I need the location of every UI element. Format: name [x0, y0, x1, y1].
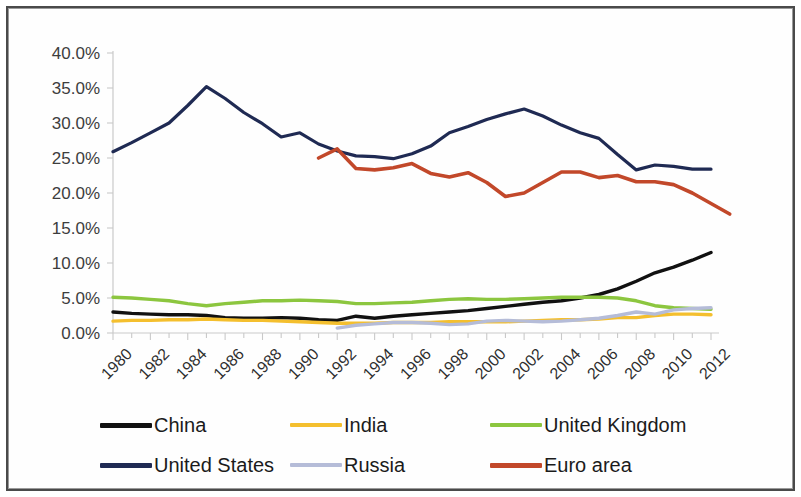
legend-label-china: China: [154, 415, 206, 435]
legend-swatch-china: [100, 423, 152, 428]
legend-item-china[interactable]: China: [100, 415, 290, 435]
legend-row: China India United Kingdom: [100, 405, 740, 445]
x-tick-label: 1982: [135, 345, 172, 382]
y-axis-ticks: [107, 53, 113, 333]
x-tick-label: 2002: [509, 345, 546, 382]
x-tick-label: 1994: [360, 345, 397, 382]
x-tick-label: 1996: [397, 345, 434, 382]
x-tick-label: 2004: [546, 345, 583, 382]
x-axis-ticks: [113, 333, 711, 340]
x-tick-label: 2008: [621, 345, 658, 382]
x-tick-label: 1984: [173, 345, 210, 382]
x-tick-label: 2010: [659, 345, 696, 382]
chart-legend: China India United Kingdom United States…: [100, 405, 740, 485]
y-tick-label: 0.0%: [61, 324, 100, 343]
legend-label-united-states: United States: [154, 455, 274, 475]
x-tick-label: 1992: [322, 345, 359, 382]
x-tick-label: 1988: [247, 345, 284, 382]
legend-swatch-united-kingdom: [490, 423, 542, 427]
legend-item-united-kingdom[interactable]: United Kingdom: [490, 415, 740, 435]
chart-figure: 0.0%5.0%10.0%15.0%20.0%25.0%30.0%35.0%40…: [0, 0, 801, 497]
x-tick-label: 1986: [210, 345, 247, 382]
legend-swatch-euro-area: [490, 463, 542, 468]
legend-item-russia[interactable]: Russia: [290, 455, 490, 475]
y-axis-tick-labels: 0.0%5.0%10.0%15.0%20.0%25.0%30.0%35.0%40…: [52, 44, 100, 343]
y-tick-label: 5.0%: [61, 289, 100, 308]
legend-item-euro-area[interactable]: Euro area: [490, 455, 740, 475]
legend-label-euro-area: Euro area: [544, 455, 632, 475]
legend-item-united-states[interactable]: United States: [100, 455, 290, 475]
legend-label-russia: Russia: [344, 455, 405, 475]
x-tick-label: 1990: [285, 345, 322, 382]
legend-label-united-kingdom: United Kingdom: [544, 415, 686, 435]
x-tick-label: 2012: [696, 345, 733, 382]
series-line-united-states: [113, 87, 711, 170]
x-axis-tick-labels: 1980198219841986198819901992199419961998…: [98, 345, 733, 382]
legend-row: United States Russia Euro area: [100, 445, 740, 485]
legend-swatch-india: [290, 423, 342, 427]
x-tick-label: 2006: [584, 345, 621, 382]
legend-label-india: India: [344, 415, 387, 435]
y-tick-label: 10.0%: [52, 254, 100, 273]
x-tick-label: 1980: [98, 345, 135, 382]
y-tick-label: 30.0%: [52, 114, 100, 133]
y-tick-label: 25.0%: [52, 149, 100, 168]
y-tick-label: 15.0%: [52, 219, 100, 238]
y-tick-label: 20.0%: [52, 184, 100, 203]
series-line-united-kingdom: [113, 297, 711, 309]
legend-item-india[interactable]: India: [290, 415, 490, 435]
x-tick-label: 1998: [434, 345, 471, 382]
series-line-china: [113, 253, 711, 321]
y-tick-label: 35.0%: [52, 79, 100, 98]
legend-swatch-russia: [290, 463, 342, 467]
series-lines: [113, 87, 730, 329]
legend-swatch-united-states: [100, 463, 152, 468]
x-tick-label: 2000: [472, 345, 509, 382]
series-line-russia: [337, 308, 711, 328]
y-tick-label: 40.0%: [52, 44, 100, 63]
